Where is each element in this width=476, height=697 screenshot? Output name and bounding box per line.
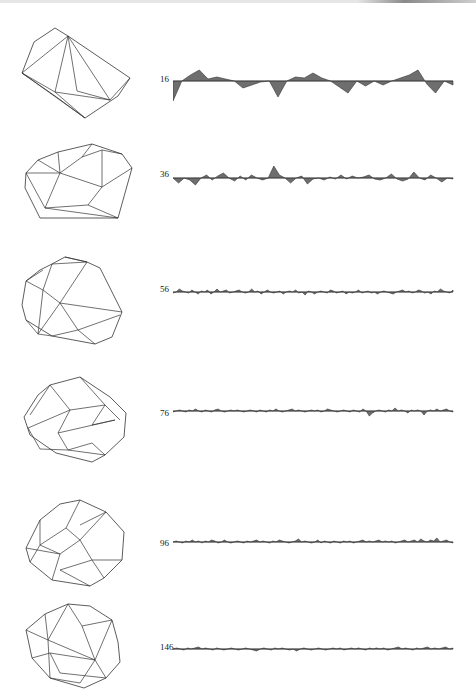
triangulated-polygon	[0, 130, 150, 250]
signal-profile	[173, 60, 455, 105]
signal-profile	[173, 150, 455, 195]
vertex-count-label: 96	[160, 538, 169, 548]
signal-profile	[173, 636, 455, 666]
vertex-count-label: 16	[160, 74, 169, 84]
signal-profile	[173, 528, 455, 558]
page-top-edge	[0, 0, 476, 3]
triangulated-polygon	[0, 365, 150, 485]
triangulated-polygon	[0, 8, 150, 128]
triangulated-polygon	[0, 490, 150, 610]
triangulated-polygon	[0, 598, 150, 697]
triangulated-polygon	[0, 240, 150, 360]
signal-profile	[173, 275, 455, 310]
vertex-count-label: 146	[160, 642, 174, 652]
vertex-count-label: 36	[160, 169, 169, 179]
vertex-count-label: 76	[160, 408, 169, 418]
signal-profile	[173, 397, 455, 427]
vertex-count-label: 56	[160, 284, 169, 294]
